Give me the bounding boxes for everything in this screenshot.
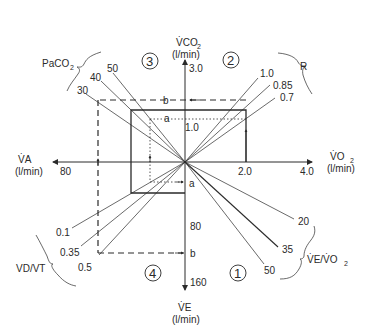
svg-text:2: 2 <box>70 64 74 71</box>
vco2-unit: (l/min) <box>172 49 200 60</box>
vco2-label: V̇CO <box>176 36 198 48</box>
vco2-axis-label: V̇CO 2 (l/min) <box>172 36 201 60</box>
quadrant-1-label: 1 <box>234 266 241 281</box>
vdvt-family: 0.1 0.35 0.5 VD/VT <box>16 227 92 286</box>
vdvt-brace <box>36 235 76 286</box>
marker-b-bottom: b <box>190 248 196 259</box>
va-label: V̇A <box>18 153 32 165</box>
ve-tick-80: 80 <box>190 221 202 232</box>
va-axis-label: V̇A (l/min) <box>15 153 43 177</box>
vevo2-value-50: 50 <box>264 265 276 276</box>
ve-unit: (l/min) <box>172 314 200 325</box>
vevo2-family: 20 35 50 V̇E/V̇O 2 <box>264 216 348 279</box>
vo2-unit: (l/min) <box>327 163 355 174</box>
vo2-label: V̇O <box>330 150 345 162</box>
r-label: R <box>300 61 307 72</box>
paco2-value-30: 30 <box>77 85 89 96</box>
marker-a-bottom: a <box>189 178 195 189</box>
paco2-label: PaCO <box>42 58 69 69</box>
vdvt-value-0.35: 0.35 <box>60 247 80 258</box>
vevo2-label: V̇E/V̇O <box>307 253 338 265</box>
vdvt-value-0.5: 0.5 <box>78 262 92 273</box>
paco2-value-50: 50 <box>107 63 119 74</box>
r-family: 1.0 0.85 0.7 R <box>260 53 312 103</box>
vo2-tick-4: 4.0 <box>300 166 314 177</box>
axes <box>53 60 312 290</box>
vevo2-line-35 <box>185 162 278 247</box>
paco2-family: PaCO 2 30 40 50 <box>42 52 119 96</box>
vco2-tick-3: 3.0 <box>189 63 203 74</box>
vevo2-value-35: 35 <box>282 244 294 255</box>
vco2-tick-1: 1.0 <box>185 122 199 133</box>
isopleth-lines <box>72 73 294 264</box>
quadrant-2-label: 2 <box>227 53 234 68</box>
ve-tick-160: 160 <box>190 277 207 288</box>
paco2-line-40 <box>101 81 185 162</box>
vdvt-line-0.1 <box>72 162 185 228</box>
r-line-1.0 <box>185 78 258 162</box>
gas-exchange-diagram: V̇CO 2 (l/min) 3.0 1.0 V̇O 2 (l/min) 2.0… <box>0 0 370 336</box>
vo2-axis-label: V̇O 2 (l/min) <box>327 150 355 174</box>
vdvt-value-0.1: 0.1 <box>56 227 70 238</box>
vevo2-value-20: 20 <box>298 216 310 227</box>
ve-label: V̇E <box>178 301 192 313</box>
ve-axis-label: V̇E (l/min) <box>172 301 200 325</box>
vevo2-line-50 <box>185 162 264 264</box>
quadrant-3-label: 3 <box>146 54 153 69</box>
paco2-line-50 <box>113 73 185 162</box>
quadrant-4-label: 4 <box>149 266 156 281</box>
vdvt-line-0.35 <box>81 162 185 246</box>
va-tick-80: 80 <box>60 166 72 177</box>
svg-text:2: 2 <box>344 260 348 267</box>
paco2-line-30 <box>86 94 185 162</box>
vo2-tick-2: 2.0 <box>238 166 252 177</box>
paco2-value-40: 40 <box>90 72 102 83</box>
va-unit: (l/min) <box>15 166 43 177</box>
vdvt-label: VD/VT <box>16 263 45 274</box>
vdvt-line-0.5 <box>99 162 185 255</box>
r-value-0.7: 0.7 <box>280 92 294 103</box>
r-value-0.85: 0.85 <box>273 80 293 91</box>
r-value-1.0: 1.0 <box>260 68 274 79</box>
marker-b-top: b <box>163 95 169 106</box>
marker-a-top: a <box>164 113 170 124</box>
